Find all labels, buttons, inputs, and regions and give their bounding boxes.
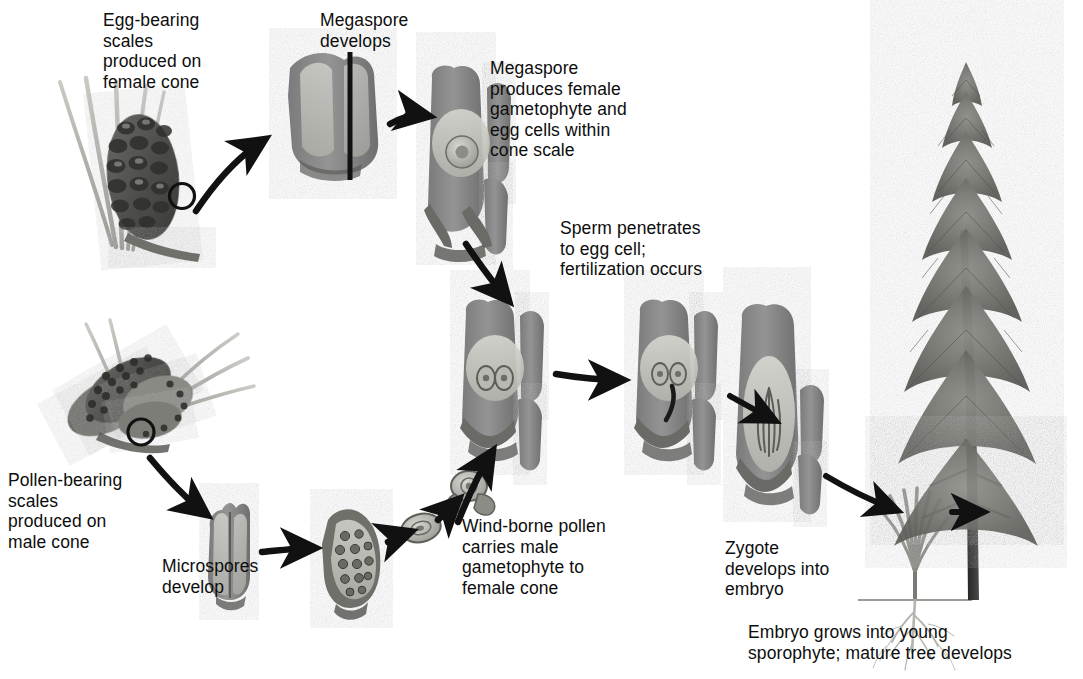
stage-female-cone xyxy=(60,78,200,262)
label-egg-bearing-scales: Egg-bearing scales produced on female co… xyxy=(103,10,243,92)
arrow-microsporangium-to-sac xyxy=(262,548,314,552)
pine-life-cycle-figure: Egg-bearing scales produced on female co… xyxy=(0,0,1083,679)
stage-microspore-sac xyxy=(322,509,380,620)
stage-zygote-scale xyxy=(634,300,718,471)
label-sperm-penetrates: Sperm penetrates to egg cell; fertilizat… xyxy=(560,218,770,280)
label-embryo-grows: Embryo grows into young sporophyte; matu… xyxy=(748,622,1078,663)
label-pollen-bearing-scales: Pollen-bearing scales produced on male c… xyxy=(8,470,168,552)
stage-male-cone xyxy=(57,320,254,453)
stage-pollen-grain xyxy=(398,510,444,547)
label-wind-borne-pollen: Wind-borne pollen carries male gametophy… xyxy=(462,516,662,598)
arrow-scale-to-gametophyte xyxy=(390,115,428,124)
label-megaspore-develops: Megaspore develops xyxy=(320,10,470,51)
label-zygote-develops: Zygote develops into embryo xyxy=(725,538,885,600)
stage-ovulate-scale xyxy=(288,52,378,181)
arrow-seed-to-seedling xyxy=(826,476,896,510)
arrow-layer xyxy=(150,115,982,552)
stage-fertilization xyxy=(460,300,544,471)
label-microspores-develop: Microspores develop xyxy=(162,556,302,597)
arrow-gametophyte-to-fertilization xyxy=(466,244,508,300)
arrow-female-cone-to-scale xyxy=(196,140,264,211)
label-megaspore-produces: Megaspore produces female gametophyte an… xyxy=(490,58,690,161)
stage-mature-tree xyxy=(894,62,1038,600)
arrow-fertilization-to-zygote xyxy=(556,374,622,380)
